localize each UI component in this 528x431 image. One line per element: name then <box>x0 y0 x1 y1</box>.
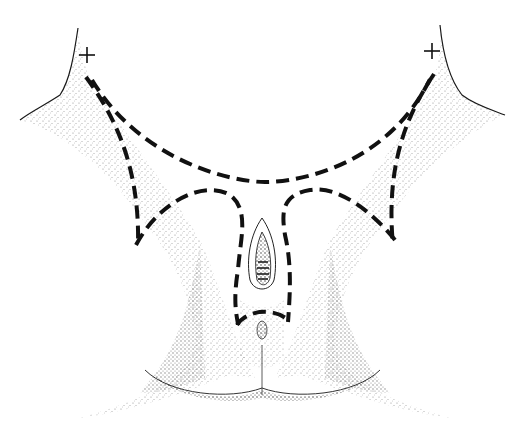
central-anatomy <box>240 218 284 368</box>
anatomical-illustration <box>0 0 528 431</box>
right-leg-shading <box>275 25 505 418</box>
left-leg-shading <box>20 28 255 418</box>
illustration-canvas <box>0 0 528 431</box>
right-plus-marker <box>424 43 440 59</box>
